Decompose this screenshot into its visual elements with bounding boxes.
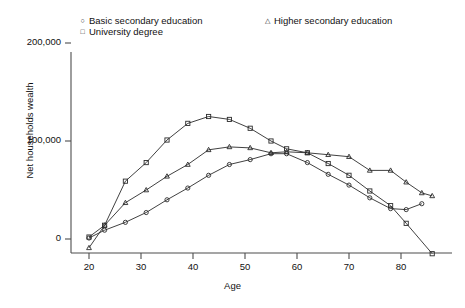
plot-area [0, 0, 465, 308]
series-basic-secondary-education [89, 154, 422, 238]
series-university-degree [89, 117, 432, 254]
figure-footnote-cutoff [18, 296, 218, 306]
series-higher-secondary-education [89, 147, 432, 248]
series-line [89, 154, 422, 238]
series-line [89, 117, 432, 254]
series-line [89, 147, 432, 248]
chart-figure: ○ Basic secondary education □ University… [0, 0, 465, 308]
